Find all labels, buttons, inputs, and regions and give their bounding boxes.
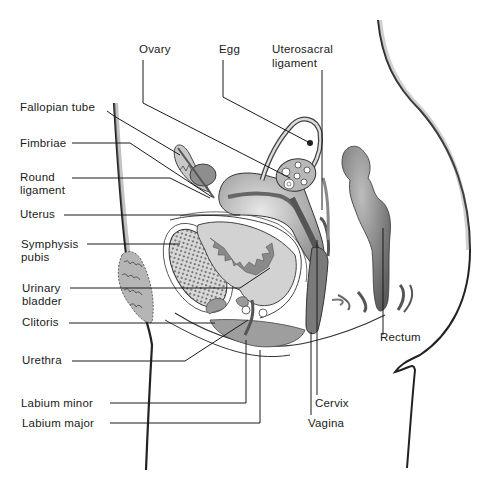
label-symphysis-pubis-line1: Symphysis xyxy=(21,238,78,251)
label-urinary-bladder-line2: bladder xyxy=(22,295,62,308)
label-labium-minor: Labium minor xyxy=(21,397,93,410)
back-body-contour xyxy=(378,20,470,468)
label-fimbriae: Fimbriae xyxy=(20,137,66,150)
labium-tissue xyxy=(210,319,305,346)
label-round-ligament-line1: Round xyxy=(20,171,55,184)
label-urethra: Urethra xyxy=(22,354,62,367)
anatomy-diagram: Ovary Egg Uterosacral ligament Fallopian… xyxy=(0,0,491,490)
label-symphysis-pubis-line2: pubis xyxy=(21,251,50,264)
urethral-tissue xyxy=(236,297,248,307)
gland-2 xyxy=(259,309,267,317)
label-rectum: Rectum xyxy=(380,331,421,344)
label-clitoris: Clitoris xyxy=(22,316,59,329)
label-egg: Egg xyxy=(219,43,240,56)
label-labium-major: Labium major xyxy=(22,417,94,430)
pubic-hair xyxy=(118,252,153,323)
label-round-ligament-line2: ligament xyxy=(20,184,65,197)
label-fallopian-tube: Fallopian tube xyxy=(20,101,95,114)
rectum xyxy=(332,146,412,312)
label-uterosacral-ligament-line2: ligament xyxy=(272,57,317,70)
gland-1 xyxy=(242,306,250,314)
label-ovary: Ovary xyxy=(139,43,171,56)
label-urinary-bladder-line1: Urinary xyxy=(22,282,60,295)
label-uterosacral-ligament-line1: Uterosacral xyxy=(272,43,333,56)
label-uterus: Uterus xyxy=(20,208,55,221)
label-cervix: Cervix xyxy=(315,397,349,410)
label-vagina: Vagina xyxy=(308,417,344,430)
